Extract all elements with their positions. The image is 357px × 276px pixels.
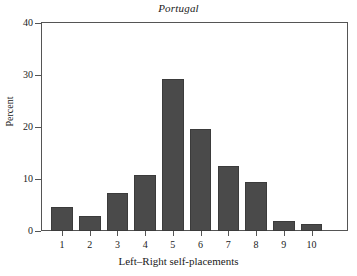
y-axis-tick-label: 10 [3, 174, 33, 184]
x-axis-tick [145, 231, 146, 236]
x-axis-tick [256, 231, 257, 236]
y-axis-tick-label-wrap: 0 [0, 226, 33, 236]
chart-container: Portugal 010203040 Percent 12345678910 L… [0, 0, 357, 276]
bar [273, 221, 295, 231]
x-axis-tick [173, 231, 174, 236]
x-axis-tick [284, 231, 285, 236]
x-axis-tick-label: 1 [47, 239, 77, 250]
y-axis-tick [35, 75, 41, 76]
x-axis-tick [312, 231, 313, 236]
x-axis-tick-label: 2 [75, 239, 105, 250]
y-axis-tick [35, 179, 41, 180]
bar [190, 129, 212, 231]
x-axis-tick [62, 231, 63, 236]
bars-group [42, 23, 347, 231]
y-axis-title: Percent [4, 82, 15, 142]
bar [245, 182, 267, 231]
y-axis-tick-label-wrap: 10 [0, 174, 33, 184]
y-axis-tick-label: 0 [3, 226, 33, 236]
x-axis-tick-label: 7 [213, 239, 243, 250]
bar [162, 79, 184, 231]
y-axis-tick-label: 30 [3, 70, 33, 80]
x-axis-tick-label: 3 [102, 239, 132, 250]
bar [301, 224, 323, 231]
bar [218, 166, 240, 231]
x-axis-tick-label: 4 [130, 239, 160, 250]
bar [107, 193, 129, 231]
bar [79, 216, 101, 231]
chart-title: Portugal [0, 2, 357, 14]
bar [51, 207, 73, 231]
x-axis-tick [228, 231, 229, 236]
x-axis-tick-label: 6 [186, 239, 216, 250]
x-axis-title: Left–Right self-placements [0, 255, 357, 267]
bar [134, 175, 156, 231]
y-axis-tick [35, 23, 41, 24]
y-axis-tick-label-wrap: 40 [0, 18, 33, 28]
y-axis-tick [35, 231, 41, 232]
y-axis-tick-label: 40 [3, 18, 33, 28]
x-axis-tick-label: 5 [158, 239, 188, 250]
y-axis-tick-label-wrap: 30 [0, 70, 33, 80]
x-axis-tick [90, 231, 91, 236]
x-axis-tick [201, 231, 202, 236]
x-axis-tick-label: 8 [241, 239, 271, 250]
y-axis-tick [35, 127, 41, 128]
x-axis-tick [117, 231, 118, 236]
x-axis-tick-label: 10 [297, 239, 327, 250]
x-axis-tick-label: 9 [269, 239, 299, 250]
